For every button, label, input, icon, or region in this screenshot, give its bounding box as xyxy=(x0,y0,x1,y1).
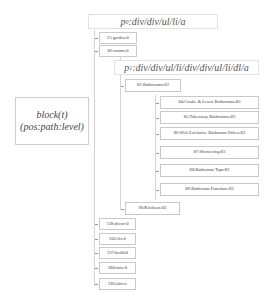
connector-tick xyxy=(156,153,159,154)
node-202-fix: 202:fix:0 xyxy=(99,233,136,245)
node-87-showering: 87:Showering:83 xyxy=(160,146,259,159)
node-237-build: 237:build:0 xyxy=(99,247,136,259)
tree-trunk-bathrooms xyxy=(155,95,156,200)
node-280-mix: 280:mix:0 xyxy=(99,262,136,274)
node-84-cooke-lewis: 84:Cooke & Lewis Bathrooms:83 xyxy=(160,96,259,109)
connector-tick xyxy=(156,134,159,135)
connector-tick xyxy=(121,86,124,87)
connector-tick xyxy=(95,284,98,285)
connector-tick xyxy=(156,118,159,119)
tree-trunk-rooms xyxy=(120,55,121,210)
connector-tick xyxy=(95,224,98,225)
path-text: :div/div/ul/li/a xyxy=(128,16,185,27)
legend-line-1: block(t) xyxy=(36,109,67,122)
tree-trunk-root xyxy=(94,30,95,286)
path-label-p0: p0:div/div/ul/li/a xyxy=(88,14,218,29)
connector-tick xyxy=(95,239,98,240)
node-86-web-exclusive: 86:Web Exclusive Bathroom Offers:83 xyxy=(160,127,259,140)
node-85-takeaway: 85:Takeaway Bathrooms:83 xyxy=(160,111,259,124)
connector-tick xyxy=(121,209,124,210)
connector-tick xyxy=(95,51,98,52)
node-89-bathroom-furniture: 89:Bathroom Furniture:83 xyxy=(160,183,259,196)
node-283-offers: 283:offers xyxy=(99,278,136,290)
connector-tick xyxy=(156,103,159,104)
node-83-bathrooms: 83:Bathrooms:82 xyxy=(125,79,181,92)
connector-tick xyxy=(95,268,98,269)
path-label-p1: p1:div/div/ul/li/div/div/ul/li/dl/a xyxy=(114,60,259,75)
path-text: :div/div/ul/li/div/div/ul/li/dl/a xyxy=(132,62,249,73)
connector-tick xyxy=(156,171,159,172)
legend-box: block(t) (pos:path:level) xyxy=(15,97,89,145)
legend-line-2: (pos:path:level) xyxy=(20,121,84,134)
connector-tick xyxy=(95,38,98,39)
connector-tick xyxy=(156,190,159,191)
node-82-rooms: 82:rooms:0 xyxy=(99,45,137,57)
node-138-decor: 138:décor:0 xyxy=(99,218,136,230)
connector-tick xyxy=(95,253,98,254)
node-25-garden: 25 garden:0 xyxy=(99,32,137,44)
node-88-bathroom-taps: 88:Bathroom Taps:83 xyxy=(160,164,259,177)
node-90-kitchens: 90:Kitchens:82 xyxy=(125,202,180,215)
